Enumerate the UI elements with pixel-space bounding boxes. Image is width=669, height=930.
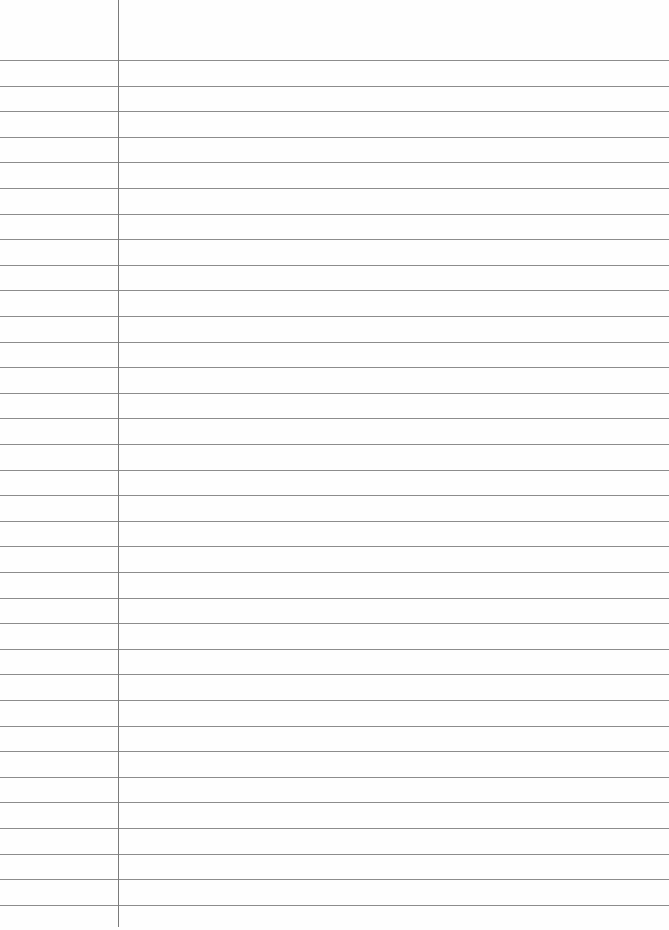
ruled-line: [0, 137, 669, 138]
ruled-line: [0, 188, 669, 189]
ruled-line: [0, 162, 669, 163]
ruled-line: [0, 418, 669, 419]
ruled-line: [0, 649, 669, 650]
ruled-line: [0, 316, 669, 317]
ruled-line: [0, 367, 669, 368]
ruled-line: [0, 802, 669, 803]
ruled-line: [0, 214, 669, 215]
ruled-line: [0, 674, 669, 675]
ruled-line: [0, 777, 669, 778]
ruled-line: [0, 700, 669, 701]
ruled-line: [0, 879, 669, 880]
ruled-line: [0, 495, 669, 496]
ruled-line: [0, 444, 669, 445]
ruled-line: [0, 854, 669, 855]
ruled-line: [0, 623, 669, 624]
ruled-line: [0, 342, 669, 343]
ruled-line: [0, 546, 669, 547]
ruled-line: [0, 470, 669, 471]
ruled-line: [0, 86, 669, 87]
ruled-line: [0, 265, 669, 266]
ruled-line: [0, 60, 669, 61]
ruled-line: [0, 290, 669, 291]
lined-paper-page: [0, 0, 669, 930]
ruled-line: [0, 598, 669, 599]
ruled-line: [0, 111, 669, 112]
ruled-line: [0, 726, 669, 727]
ruled-line: [0, 572, 669, 573]
ruled-line: [0, 393, 669, 394]
ruled-line: [0, 521, 669, 522]
ruled-line: [0, 828, 669, 829]
ruled-line: [0, 751, 669, 752]
ruled-line: [0, 239, 669, 240]
ruled-line: [0, 905, 669, 906]
margin-line: [118, 0, 119, 927]
